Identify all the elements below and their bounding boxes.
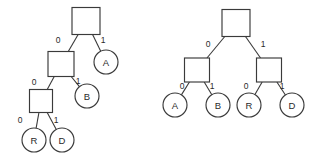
internal-node-square — [257, 58, 282, 82]
edge-label: 1 — [261, 39, 266, 49]
leaf-node-label: D — [289, 100, 296, 111]
leaf-node-label: R — [31, 135, 38, 146]
leaf-node-label: D — [59, 135, 66, 146]
edge-label: 1 — [76, 76, 81, 86]
tree-edge — [93, 35, 101, 52]
right-tree: 010101ABRD — [163, 10, 304, 118]
internal-node-square — [72, 8, 100, 35]
edge-label: 1 — [210, 81, 215, 91]
binary-trees-svg: 010101ABRD010101ABRD — [0, 0, 315, 166]
edge-label: 1 — [54, 115, 59, 125]
internal-node-square — [30, 90, 53, 113]
edge-label: 0 — [32, 77, 37, 87]
tree-edge — [245, 37, 260, 59]
edge-label: 1 — [101, 35, 106, 45]
internal-node-square — [222, 10, 250, 37]
decision-trees-figure: 010101ABRD010101ABRD — [0, 0, 315, 166]
tree-edge — [68, 35, 78, 52]
edge-label: 0 — [18, 115, 23, 125]
leaf-node-label: R — [246, 100, 253, 111]
edge-label: 0 — [180, 81, 185, 91]
leaf-node-label: B — [84, 91, 90, 102]
edge-label: 0 — [244, 81, 249, 91]
tree-edge — [255, 82, 262, 95]
internal-node-square — [185, 58, 210, 82]
tree-edge — [47, 77, 54, 90]
left-tree: 010101ABRD — [18, 8, 118, 153]
internal-node-square — [48, 52, 74, 77]
leaf-node-label: A — [103, 57, 110, 68]
leaf-node-label: A — [172, 100, 179, 111]
edge-label: 0 — [56, 35, 61, 45]
leaf-node-label: B — [215, 100, 221, 111]
tree-edge — [36, 113, 39, 129]
edge-label: 0 — [206, 39, 211, 49]
